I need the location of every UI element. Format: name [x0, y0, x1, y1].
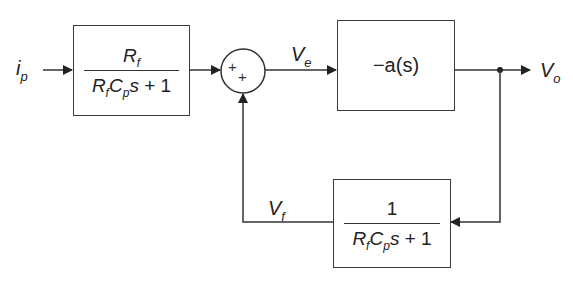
output-label-base: V	[540, 59, 553, 81]
feedback-transfer-fraction: 1 RfCps + 1	[344, 199, 439, 249]
forward-num-base: R	[123, 45, 137, 66]
feedback-numerator: 1	[379, 199, 406, 223]
den-rest: + 1	[139, 75, 171, 96]
error-label-sub: e	[304, 55, 311, 70]
output-label-sub: o	[553, 71, 560, 86]
sum-sign-2: +	[238, 69, 247, 84]
error-label-base: V	[291, 43, 304, 65]
den-c-sub: p	[123, 86, 130, 100]
feedback-transfer-block: 1 RfCps + 1	[333, 179, 451, 268]
output-signal-label: Vo	[540, 60, 561, 80]
feedback-return-path	[243, 94, 333, 222]
input-label-ip: ip	[16, 58, 28, 78]
fb-den-r-sub: f	[366, 239, 369, 253]
den-c: C	[109, 75, 123, 96]
input-label-sub: p	[20, 69, 27, 84]
forward-transfer-block: Rf RfCps + 1	[73, 25, 190, 116]
sum-sign-1: +	[228, 59, 237, 74]
amplifier-block: −a(s)	[337, 20, 455, 111]
amplifier-gain-label: −a(s)	[373, 54, 419, 77]
fb-den-r: R	[352, 228, 366, 249]
feedback-denominator: RfCps + 1	[344, 224, 439, 248]
feedback-label-base: V	[268, 197, 281, 219]
forward-num-sub: f	[137, 56, 140, 70]
den-r-sub: f	[106, 86, 109, 100]
fb-den-c-sub: p	[383, 239, 390, 253]
feedback-label-sub: f	[281, 209, 285, 224]
forward-numerator: Rf	[115, 46, 148, 70]
fb-den-c: C	[369, 228, 383, 249]
den-r: R	[92, 75, 106, 96]
error-signal-label: Ve	[291, 44, 312, 64]
feedback-takeoff-path	[451, 70, 500, 222]
forward-transfer-fraction: Rf RfCps + 1	[84, 46, 179, 96]
forward-denominator: RfCps + 1	[84, 71, 179, 95]
feedback-signal-label: Vf	[268, 198, 285, 218]
fb-den-s: s	[390, 228, 400, 249]
den-s: s	[129, 75, 139, 96]
fb-den-rest: + 1	[399, 228, 431, 249]
